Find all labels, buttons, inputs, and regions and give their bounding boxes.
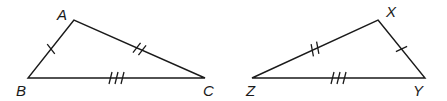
- vertex-label-a: A: [56, 6, 67, 23]
- triangle-xyz: XYZ: [245, 3, 425, 99]
- vertex-label-c: C: [203, 82, 214, 99]
- vertex-label-y: Y: [413, 82, 424, 99]
- congruent-triangles-diagram: ABC XYZ: [0, 0, 447, 101]
- vertex-label-x: X: [385, 3, 397, 20]
- congruence-tick-mark: [138, 45, 146, 55]
- triangle-ABC-outline: [28, 20, 205, 78]
- triangle-abc: ABC: [16, 6, 214, 99]
- congruence-tick-mark: [133, 43, 141, 53]
- congruence-tick-mark: [396, 46, 407, 51]
- triangle-XYZ-outline: [252, 20, 425, 78]
- vertex-label-b: B: [16, 82, 26, 99]
- vertex-label-z: Z: [245, 82, 256, 99]
